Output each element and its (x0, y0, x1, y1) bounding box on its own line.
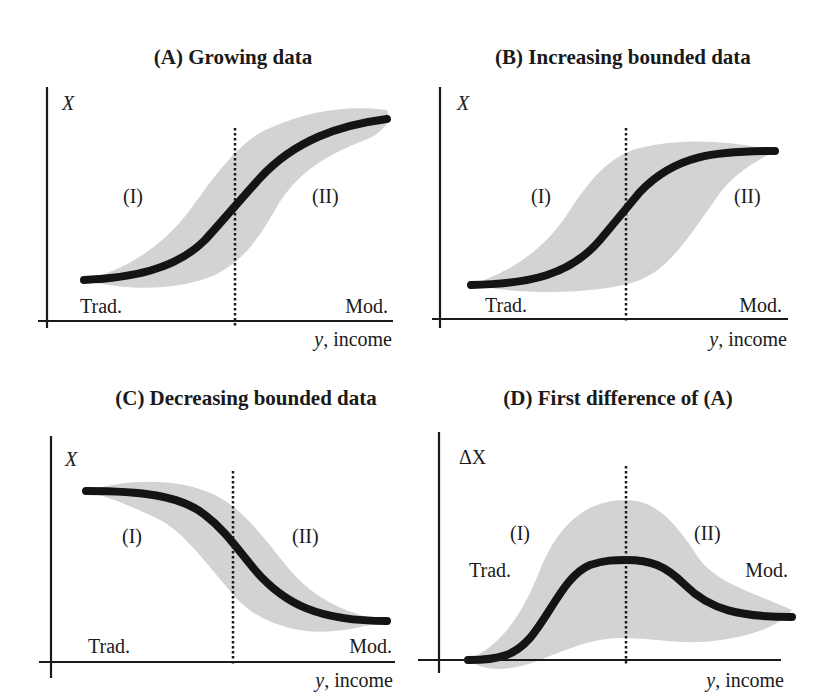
panel-c-trad-label: Trad. (88, 635, 130, 657)
panel-c-region-ii: (II) (292, 525, 319, 548)
panel-d-x-label-var: y (704, 669, 715, 692)
panel-c-y-label: X (64, 448, 78, 470)
panel-b-trad-label: Trad. (485, 294, 527, 316)
panel-d-x-label-rest: , income (715, 669, 784, 691)
panel-a-y-label: X (61, 92, 75, 114)
panel-a-region-i: (I) (123, 185, 143, 208)
panel-a-x-label-rest: , income (323, 328, 392, 350)
panel-d-region-ii: (II) (694, 522, 721, 545)
panel-d-mod-label: Mod. (745, 559, 788, 581)
four-panel-diagram: (A) Growing data X (I) (II) Trad. Mod. y… (0, 0, 838, 699)
panel-d-trad-label: Trad. (469, 559, 511, 581)
panel-c-title: (C) Decreasing bounded data (115, 386, 377, 410)
panel-d-region-i: (I) (510, 522, 530, 545)
panel-c-region-i: (I) (122, 525, 142, 548)
panel-b-y-label: X (456, 92, 470, 114)
panel-a-mod-label: Mod. (345, 295, 388, 317)
panel-c-x-label-var: y (313, 669, 324, 692)
panel-a-x-label-var: y (312, 328, 323, 351)
panel-b-title: (B) Increasing bounded data (495, 45, 751, 69)
panel-a: (A) Growing data X (I) (II) Trad. Mod. y… (38, 45, 393, 351)
panel-b-x-label-rest: , income (718, 328, 787, 350)
panel-d-title: (D) First difference of (A) (503, 386, 732, 410)
panel-d-y-label: ΔX (459, 446, 487, 468)
panel-b-mod-label: Mod. (739, 294, 782, 316)
panel-d-x-label: y, income (704, 669, 784, 692)
figure-root: (A) Growing data X (I) (II) Trad. Mod. y… (0, 0, 838, 699)
panel-b-region-ii: (II) (734, 185, 761, 208)
panel-a-region-ii: (II) (312, 185, 339, 208)
panel-b-x-label: y, income (707, 328, 787, 351)
panel-c-mod-label: Mod. (349, 635, 392, 657)
panel-b: (B) Increasing bounded data X (I) (II) T… (432, 45, 788, 351)
panel-a-title: (A) Growing data (154, 45, 313, 69)
panel-b-region-i: (I) (531, 185, 551, 208)
panel-a-x-label: y, income (312, 328, 392, 351)
panel-a-trad-label: Trad. (80, 295, 122, 317)
panel-d: (D) First difference of (A) ΔX (I) (II) … (418, 386, 792, 692)
panel-c-uncertainty-band (86, 482, 387, 632)
panel-c-x-label: y, income (313, 669, 393, 692)
panel-b-x-label-var: y (707, 328, 718, 351)
panel-c-x-label-rest: , income (324, 669, 393, 691)
panel-c: (C) Decreasing bounded data X (I) (II) T… (39, 386, 395, 692)
